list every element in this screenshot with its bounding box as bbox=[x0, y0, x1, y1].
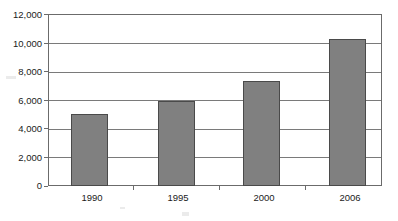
y-axis-label-2000: 2,000 bbox=[18, 153, 42, 163]
bar-1995 bbox=[158, 101, 195, 186]
scan-artifact bbox=[6, 76, 16, 79]
x-axis-tick-1 bbox=[133, 186, 134, 190]
x-axis-label-1995: 1995 bbox=[152, 193, 204, 203]
bar-chart: 12,000 10,000 8,000 6,000 4,000 2,000 0 … bbox=[0, 0, 398, 221]
scan-artifact bbox=[120, 207, 125, 209]
y-axis-label-8000: 8,000 bbox=[18, 67, 42, 77]
y-axis-label-12000: 12,000 bbox=[13, 10, 42, 20]
plot-area bbox=[48, 14, 382, 186]
bar-1990 bbox=[71, 114, 108, 186]
x-axis-label-1990: 1990 bbox=[66, 193, 118, 203]
y-axis-tick-0 bbox=[44, 186, 48, 187]
scan-artifact bbox=[182, 212, 189, 216]
y-axis-label-6000: 6,000 bbox=[18, 96, 42, 106]
x-axis-tick-2 bbox=[219, 186, 220, 190]
y-axis-label-4000: 4,000 bbox=[18, 124, 42, 134]
bar-2000 bbox=[243, 81, 280, 186]
x-axis-label-2000: 2000 bbox=[238, 193, 290, 203]
x-axis-tick-3 bbox=[305, 186, 306, 190]
y-axis-label-10000: 10,000 bbox=[13, 39, 42, 49]
y-axis-label-0: 0 bbox=[37, 181, 42, 191]
x-axis-label-2006: 2006 bbox=[324, 193, 376, 203]
bar-2006 bbox=[329, 39, 366, 186]
